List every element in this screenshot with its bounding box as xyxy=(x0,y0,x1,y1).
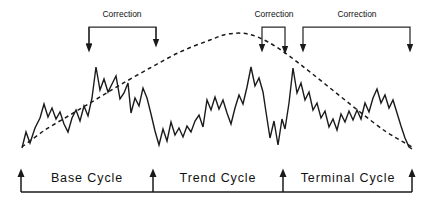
cycle-label-trend: Trend Cycle xyxy=(180,171,257,185)
correction-arrow-2a xyxy=(259,44,265,53)
cycle-axis: Base Cycle Trend Cycle Terminal Cycle xyxy=(18,169,416,193)
cycle-label-terminal: Terminal Cycle xyxy=(301,171,396,185)
cycle-marker-1-head xyxy=(18,169,25,178)
correction-bracket-2: Correction xyxy=(254,9,293,55)
correction-arrow-1a xyxy=(86,44,92,53)
correction-label-3: Correction xyxy=(337,9,376,19)
correction-arrow-3a xyxy=(300,44,306,53)
correction-arrow-3b xyxy=(407,44,413,53)
cycle-label-base: Base Cycle xyxy=(51,171,123,185)
correction-label-1: Correction xyxy=(102,9,141,19)
cycle-marker-2-head xyxy=(150,169,157,178)
correction-bracket-1: Correction xyxy=(86,9,159,53)
cycle-marker-4-head xyxy=(409,169,416,178)
correction-arrow-2b xyxy=(282,46,288,55)
market-cycle-diagram: Correction Correction Correction xyxy=(0,0,434,203)
correction-bracket-3: Correction xyxy=(300,9,413,53)
correction-label-2: Correction xyxy=(254,9,293,19)
trend-envelope-curve xyxy=(22,33,412,147)
cycle-marker-3-head xyxy=(280,169,287,178)
correction-arrow-1b xyxy=(153,39,159,48)
figure-canvas: Correction Correction Correction xyxy=(0,0,434,203)
